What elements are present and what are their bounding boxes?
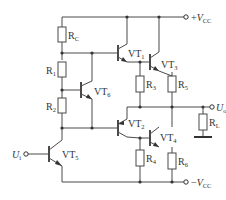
label-rc: RC (68, 30, 79, 42)
label-vt1: VT1 (128, 48, 145, 60)
output-label: Uo (216, 102, 226, 114)
resistor-r3 (136, 76, 144, 92)
output-terminal (210, 105, 214, 109)
emitter-arrow-icon (55, 160, 62, 166)
positive-supply-terminal (184, 15, 188, 19)
label-vt5: VT5 (62, 149, 79, 161)
resistor-rc (58, 27, 66, 42)
input-terminal (24, 152, 28, 156)
transistor-vt2 (111, 119, 127, 137)
resistor-r1 (58, 62, 66, 77)
transistor-vt4 (150, 127, 159, 147)
negative-supply-terminal (184, 180, 188, 184)
negative-supply-label: −VCC (191, 177, 211, 189)
label-r3: R3 (146, 79, 156, 91)
circuit-schematic: +VCC −VCC Uo Ui RC R1 R2 R3 R4 R5 R6 RL … (0, 0, 226, 200)
label-r5: R5 (178, 79, 188, 91)
label-r6: R6 (178, 156, 189, 168)
label-vt3: VT3 (161, 59, 178, 71)
label-r1: R1 (46, 65, 56, 77)
emitter-arrow-icon (121, 57, 127, 62)
label-vt2: VT2 (128, 118, 145, 130)
positive-supply-label: +VCC (191, 12, 211, 24)
resistor-r2 (58, 98, 66, 113)
emitter-arrow-icon (153, 142, 159, 147)
label-rl: RL (209, 117, 220, 129)
transistor-vt6 (81, 81, 92, 99)
resistor-rl (199, 114, 207, 130)
wires (28, 17, 203, 182)
label-r4: R4 (146, 153, 157, 165)
label-vt4: VT4 (160, 132, 177, 144)
label-vt6: VT6 (94, 86, 111, 98)
transistor-vt5 (49, 140, 62, 182)
resistor-r4 (136, 150, 144, 166)
emitter-arrow-icon (153, 66, 159, 71)
input-label: Ui (12, 149, 21, 161)
label-r2: R2 (46, 101, 56, 113)
resistor-r5 (168, 76, 176, 92)
resistor-r6 (168, 153, 176, 169)
emitter-arrow-icon (86, 94, 92, 99)
